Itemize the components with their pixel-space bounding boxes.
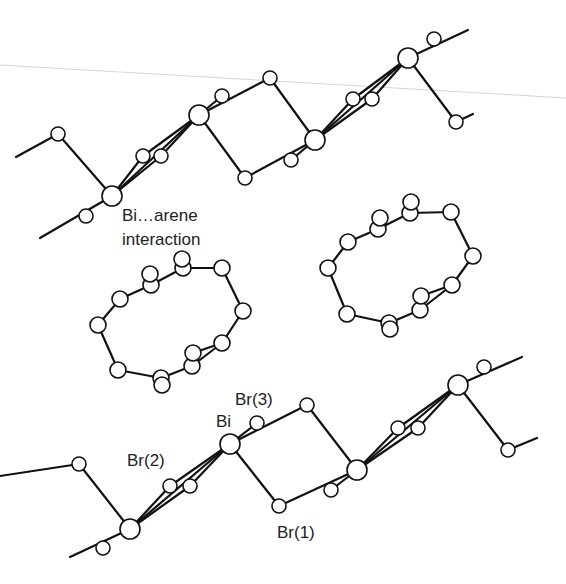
upper-chain-bond [58, 134, 112, 196]
upper-chain-br-atom [136, 149, 150, 163]
upper-chain-br-atom [215, 89, 229, 103]
br1-atom-label: Br(1) [277, 523, 315, 542]
lower-chain-br-atom [250, 416, 264, 430]
upper-chain-bi-atom [398, 48, 418, 68]
upper-chain-bond [245, 140, 315, 178]
left-arene-c-atom [174, 251, 190, 267]
lower-chain-bond [230, 444, 279, 506]
lower-chain-br-atom [72, 457, 86, 471]
lower-chain-bond [230, 405, 307, 444]
scan-guide-line [0, 65, 566, 98]
lower-chain-bond [0, 464, 79, 476]
right-arene-c-atom [339, 306, 355, 322]
lower-chain-bond [458, 385, 508, 450]
upper-chain-br-atom [263, 71, 277, 85]
lower-chain-bond [279, 470, 357, 506]
atoms-layer [51, 32, 515, 555]
left-arene-c-atom [235, 303, 251, 319]
br2-atom-label: Br(2) [127, 451, 165, 470]
right-arene-c-atom [413, 288, 429, 304]
upper-chain-br-atom [365, 92, 379, 106]
lower-chain-br-atom [324, 483, 338, 497]
interaction-label-line2: interaction [122, 230, 200, 249]
lower-chain-bi-atom [120, 519, 140, 539]
upper-chain-bi-atom [305, 130, 325, 150]
left-arene-c-atom [185, 345, 201, 361]
lower-chain-bond [357, 385, 458, 470]
lower-chain-br-atom [183, 479, 197, 493]
upper-chain-br-atom [449, 115, 463, 129]
right-arene-c-atom [320, 260, 336, 276]
lower-chain-br-atom [96, 541, 110, 555]
left-arene-c-atom [110, 362, 126, 378]
left-arene-c-atom [142, 266, 158, 282]
right-arene-c-atom [465, 248, 481, 264]
bi-atom-label: Bi [216, 412, 231, 431]
right-arene-c-atom [382, 321, 398, 337]
lower-chain-br-atom [477, 360, 491, 374]
upper-chain-bond [408, 58, 456, 122]
interaction-label-line1: Bi…arene [122, 206, 198, 225]
lower-chain-bond [79, 464, 130, 529]
bonds-layer [0, 30, 537, 557]
upper-chain-bi-atom [189, 105, 209, 125]
upper-chain-bond [199, 115, 245, 178]
left-arene-c-atom [214, 335, 230, 351]
upper-chain-bi-atom [102, 186, 122, 206]
br3-atom-label: Br(3) [235, 390, 273, 409]
right-arene-c-atom [340, 234, 356, 250]
right-arene-c-atom [443, 204, 459, 220]
upper-chain-br-atom [284, 153, 298, 167]
upper-chain-br-atom [427, 32, 441, 46]
upper-chain-br-atom [79, 209, 93, 223]
lower-chain-bi-atom [347, 460, 367, 480]
lower-chain-br-atom [391, 421, 405, 435]
left-arene-c-atom [90, 317, 106, 333]
upper-chain-br-atom [346, 92, 360, 106]
lower-chain-br-atom [272, 499, 286, 513]
right-arene-c-atom [372, 210, 388, 226]
upper-chain-bond [199, 78, 270, 115]
lower-chain-bi-atom [448, 375, 468, 395]
lower-chain-br-atom [501, 443, 515, 457]
lower-chain-bond [307, 405, 357, 470]
upper-chain-bond [40, 196, 112, 238]
upper-chain-bond [315, 58, 408, 140]
lower-chain-br-atom [163, 479, 177, 493]
right-arene-c-atom [444, 277, 460, 293]
lower-chain-br-atom [300, 398, 314, 412]
upper-chain-bond [270, 78, 315, 140]
left-arene-c-atom [154, 377, 170, 393]
right-arene-c-atom [403, 194, 419, 210]
lower-chain-bi-atom [220, 434, 240, 454]
left-arene-c-atom [112, 291, 128, 307]
crystal-structure-diagram: Bi…arene interaction Bi Br(3) Br(2) Br(1… [0, 0, 566, 584]
lower-chain-br-atom [411, 421, 425, 435]
upper-chain-br-atom [154, 149, 168, 163]
upper-chain-br-atom [51, 127, 65, 141]
upper-chain-br-atom [238, 171, 252, 185]
left-arene-c-atom [214, 260, 230, 276]
